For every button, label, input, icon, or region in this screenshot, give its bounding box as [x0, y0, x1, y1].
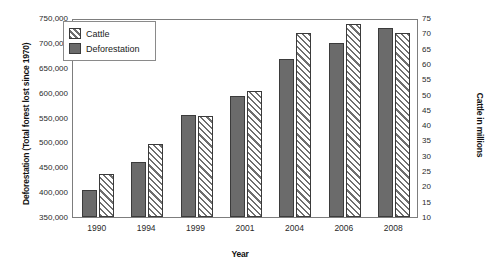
legend-swatch-cattle-icon: [69, 28, 81, 39]
bar-cattle: [99, 174, 114, 217]
legend-label-cattle: Cattle: [86, 29, 110, 39]
bar-cattle: [247, 91, 262, 217]
y-tick-right: 55: [422, 76, 452, 84]
y-tick-right: 10: [422, 214, 452, 222]
y-tick-right: 50: [422, 92, 452, 100]
bar-deforestation: [230, 96, 245, 217]
y-tick-left: 550,000: [22, 115, 68, 123]
bar-deforestation: [131, 162, 146, 217]
bar-cattle: [346, 24, 361, 217]
y-tick-right: 60: [422, 61, 452, 69]
x-tick-label: 2008: [384, 223, 403, 233]
x-tick-label: 2006: [334, 223, 353, 233]
bar-cattle: [148, 144, 163, 217]
x-tick-label: 1994: [137, 223, 156, 233]
y-tick-left: 400,000: [22, 189, 68, 197]
y-tick-left: 500,000: [22, 139, 68, 147]
legend-item-deforestation: Deforestation: [69, 41, 150, 56]
y-tick-right: 70: [422, 30, 452, 38]
y-tick-left: 700,000: [22, 40, 68, 48]
bar-deforestation: [82, 190, 97, 217]
legend-swatch-deforestation-icon: [69, 43, 81, 54]
y-tick-right: 45: [422, 107, 452, 115]
y-tick-right: 15: [422, 199, 452, 207]
y-tick-right: 35: [422, 137, 452, 145]
y-tick-left: 750,000: [22, 15, 68, 23]
y-tick-left: 600,000: [22, 90, 68, 98]
bar-deforestation: [279, 59, 294, 217]
y-tick-right: 40: [422, 122, 452, 130]
y-tick-right: 20: [422, 183, 452, 191]
y-tick-left: 450,000: [22, 164, 68, 172]
x-axis-ticks: 1990199419992001200420062008: [72, 222, 418, 236]
y-axis-ticks-left: 350,000400,000450,000500,000550,000600,0…: [20, 19, 68, 218]
bar-cattle: [198, 116, 213, 217]
y-tick-right: 65: [422, 46, 452, 54]
y-axis-label-right: Cattle in millions: [475, 45, 485, 205]
y-tick-left: 350,000: [22, 214, 68, 222]
x-tick-label: 2001: [236, 223, 255, 233]
y-tick-right: 30: [422, 153, 452, 161]
bar-deforestation: [378, 28, 393, 217]
bar-deforestation: [329, 43, 344, 217]
y-tick-right: 25: [422, 168, 452, 176]
bar-cattle: [296, 33, 311, 217]
bar-cattle: [395, 33, 410, 217]
bar-deforestation: [181, 115, 196, 217]
legend-item-cattle: Cattle: [69, 26, 150, 41]
x-axis-label: Year: [0, 249, 480, 259]
y-tick-left: 650,000: [22, 65, 68, 73]
legend: Cattle Deforestation: [63, 21, 156, 61]
legend-label-deforestation: Deforestation: [86, 44, 140, 54]
y-axis-ticks-right: 1015202530354045505560657075: [422, 19, 452, 218]
x-tick-label: 2004: [285, 223, 304, 233]
y-tick-right: 75: [422, 15, 452, 23]
x-tick-label: 1999: [186, 223, 205, 233]
x-tick-label: 1990: [87, 223, 106, 233]
